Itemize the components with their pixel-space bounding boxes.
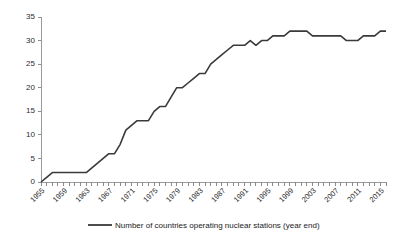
y-axis: 05101520253035 — [26, 12, 41, 186]
x-axis-tick-label: 1971 — [119, 186, 137, 204]
x-axis-tick-label: 1959 — [51, 186, 69, 204]
y-axis-tick-label: 20 — [26, 83, 35, 92]
chart-legend: Number of countries operating nuclear st… — [88, 221, 320, 230]
x-axis-tick-label: 1991 — [232, 186, 250, 204]
x-axis-tick-label: 2003 — [300, 186, 318, 204]
series-line-countries-operating-nuclear-stations — [41, 31, 386, 182]
x-axis-tick-label: 1983 — [187, 186, 205, 204]
x-axis-ticks — [41, 182, 386, 186]
y-axis-tick-label: 10 — [26, 130, 35, 139]
x-axis-tick-label: 1979 — [164, 186, 182, 204]
x-axis-tick-label: 2015 — [368, 186, 386, 204]
x-axis-tick-label: 2007 — [322, 186, 340, 204]
y-axis-tick-labels: 05101520253035 — [26, 12, 35, 186]
x-axis-tick-labels: 1955195919631967197119751979198319871991… — [28, 186, 386, 204]
x-axis-tick-label: 1955 — [28, 186, 46, 204]
x-axis-tick-label: 1967 — [96, 186, 114, 204]
y-axis-tick-label: 35 — [26, 12, 35, 21]
chart-container: 05101520253035 1955195919631967197119751… — [0, 0, 397, 242]
line-chart: 05101520253035 1955195919631967197119751… — [0, 0, 397, 242]
x-axis-tick-label: 1963 — [73, 186, 91, 204]
y-axis-tick-label: 25 — [26, 59, 35, 68]
x-axis-tick-label: 1999 — [277, 186, 295, 204]
plot-area — [41, 31, 386, 182]
x-axis-tick-label: 1987 — [209, 186, 227, 204]
x-axis-tick-label: 2011 — [345, 186, 363, 204]
legend-label: Number of countries operating nuclear st… — [115, 221, 320, 230]
y-axis-tick-label: 30 — [26, 36, 35, 45]
x-axis-tick-label: 1975 — [141, 186, 159, 204]
x-axis: 1955195919631967197119751979198319871991… — [28, 182, 386, 204]
y-axis-tick-label: 15 — [26, 106, 35, 115]
y-axis-tick-label: 0 — [31, 177, 36, 186]
y-axis-tick-label: 5 — [31, 154, 36, 163]
x-axis-tick-label: 1995 — [254, 186, 272, 204]
